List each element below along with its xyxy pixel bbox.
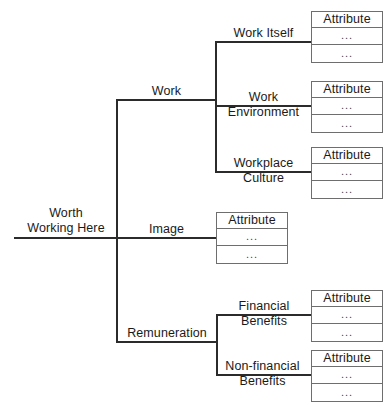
attribute-box-workplace-culture: Attribute ... ... [311, 147, 383, 199]
attribute-box-work-itself: Attribute ... ... [311, 11, 383, 63]
node-label-workplace-culture: Workplace Culture [216, 156, 311, 186]
work-environment-label-line2: Environment [214, 105, 313, 120]
attribute-box-row: ... [312, 307, 382, 325]
root-label-line1: Worth [15, 206, 117, 221]
root-label-line2: Working Here [15, 221, 117, 236]
work-environment-label-line1: Work [214, 90, 313, 105]
node-label-work: Work [117, 84, 216, 99]
attribute-box-financial-benefits: Attribute ... ... [311, 290, 383, 342]
attribute-box-header: Attribute [312, 82, 382, 98]
attribute-box-row: ... [312, 367, 382, 385]
attribute-box-row: ... [312, 28, 382, 46]
attribute-box-non-financial-benefits: Attribute ... ... [311, 350, 383, 402]
non-financial-benefits-label-line1: Non-financial [214, 359, 311, 374]
remuneration-label-line1: Remuneration [117, 326, 217, 341]
node-label-non-financial-benefits: Non-financial Benefits [214, 359, 311, 389]
attribute-box-row: ... [312, 98, 382, 116]
attribute-box-row: ... [312, 45, 382, 62]
work-itself-label-line1: Work Itself [216, 26, 311, 41]
attribute-box-row: ... [312, 324, 382, 341]
attribute-box-row: ... [312, 181, 382, 198]
attribute-box-header: Attribute [217, 213, 287, 229]
node-label-remuneration: Remuneration [117, 326, 217, 341]
attribute-box-image: Attribute ... ... [216, 212, 288, 264]
financial-benefits-label-line1: Financial [217, 299, 311, 314]
workplace-culture-label-line2: Culture [216, 171, 311, 186]
image-label-line1: Image [117, 222, 216, 237]
node-label-image: Image [117, 222, 216, 237]
node-label-financial-benefits: Financial Benefits [217, 299, 311, 329]
non-financial-benefits-label-line2: Benefits [214, 374, 311, 389]
node-label-work-itself: Work Itself [216, 26, 311, 41]
attribute-box-row: ... [312, 115, 382, 132]
node-label-worth-working-here: Worth Working Here [15, 206, 117, 236]
tree-diagram: Worth Working Here Work Work Itself Attr… [0, 0, 388, 418]
attribute-box-row: ... [217, 229, 287, 247]
attribute-box-header: Attribute [312, 12, 382, 28]
attribute-box-work-environment: Attribute ... ... [311, 81, 383, 133]
attribute-box-header: Attribute [312, 148, 382, 164]
attribute-box-row: ... [217, 246, 287, 263]
attribute-box-header: Attribute [312, 351, 382, 367]
attribute-box-row: ... [312, 164, 382, 182]
financial-benefits-label-line2: Benefits [217, 314, 311, 329]
work-label-line1: Work [117, 84, 216, 99]
workplace-culture-label-line1: Workplace [216, 156, 311, 171]
attribute-box-header: Attribute [312, 291, 382, 307]
attribute-box-row: ... [312, 384, 382, 401]
node-label-work-environment: Work Environment [214, 90, 313, 120]
